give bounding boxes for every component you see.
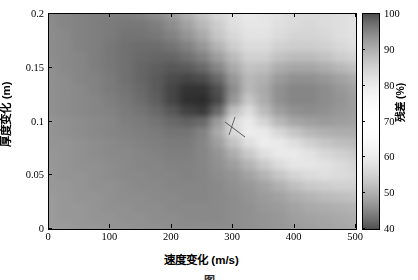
colorbar-tick-mark (362, 156, 365, 157)
x-tick-label: 200 (163, 231, 179, 242)
x-axis-title: 速度变化 (m/s) (0, 251, 403, 267)
x-tick-mark (294, 224, 295, 228)
figure-caption: 图 (0, 272, 418, 280)
x-tick-mark (109, 224, 110, 228)
colorbar-tick-mark (362, 85, 365, 86)
y-tick-label: 0.2 (6, 8, 44, 19)
y-tick-mark (48, 228, 52, 229)
colorbar-tick-mark (362, 13, 365, 14)
colorbar (362, 13, 380, 230)
x-tick-mark-top (355, 13, 356, 17)
x-tick-mark (232, 224, 233, 228)
colorbar-tick-label: 90 (384, 43, 395, 54)
y-tick-label: 0.15 (6, 61, 44, 72)
colorbar-tick-label: 50 (384, 187, 395, 198)
x-tick-mark (171, 224, 172, 228)
colorbar-tick-mark (362, 49, 365, 50)
colorbar-gradient (363, 14, 379, 229)
x-tick-mark-top (294, 13, 295, 17)
y-tick-mark (48, 174, 52, 175)
x-tick-mark (355, 224, 356, 228)
colorbar-tick-label: 40 (384, 223, 395, 234)
colorbar-tick-label: 60 (384, 151, 395, 162)
y-tick-mark (48, 13, 52, 14)
heatmap-plot-area (48, 13, 357, 230)
x-tick-label: 100 (102, 231, 118, 242)
y-tick-mark (48, 67, 52, 68)
x-tick-label: 400 (286, 231, 302, 242)
x-tick-label: 300 (224, 231, 240, 242)
x-tick-mark-top (109, 13, 110, 17)
y-axis-title: 厚度变化 (m) (0, 81, 13, 146)
x-tick-label: 0 (45, 231, 50, 242)
x-tick-label: 500 (347, 231, 363, 242)
y-tick-label: 0 (6, 223, 44, 234)
colorbar-tick-label: 100 (384, 8, 400, 19)
y-tick-label: 0.05 (6, 169, 44, 180)
figure-container: 0100200300400500 00.050.10.150.2 速度变化 (m… (0, 0, 418, 280)
colorbar-tick-mark (362, 121, 365, 122)
colorbar-tick-mark (362, 228, 365, 229)
x-tick-mark-top (171, 13, 172, 17)
y-tick-mark (48, 121, 52, 122)
residual-heatmap-canvas (49, 14, 356, 229)
colorbar-tick-mark (362, 192, 365, 193)
x-tick-mark-top (232, 13, 233, 17)
colorbar-title: 残差 (%) (392, 83, 407, 122)
